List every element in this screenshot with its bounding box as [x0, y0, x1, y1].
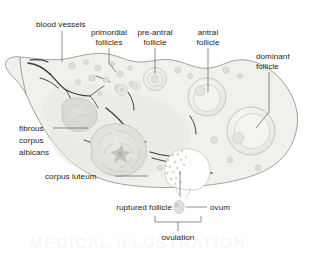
label-ovum: ovum	[210, 203, 230, 212]
ruptured-follicle	[165, 149, 210, 198]
svg-text:MEDICAL ILLUSTRATION: MEDICAL ILLUSTRATION	[30, 234, 247, 251]
ovary-diagram: MEDICAL ILLUSTRATION	[0, 0, 328, 262]
label-ruptured-follicle: ruptured follicle	[116, 203, 172, 212]
label-dominant-follicle-line1: dominant	[256, 52, 290, 61]
corpus-luteum	[91, 124, 147, 176]
label-blood-vessels: blood vessels	[36, 20, 86, 29]
label-ovulation: ovulation	[162, 233, 195, 242]
watermark: MEDICAL ILLUSTRATION	[30, 234, 247, 251]
label-corpus-luteum: corpus luteum	[45, 172, 97, 181]
label-fibrous-corpus-albicans-line2: corpus	[19, 136, 44, 145]
label-fibrous-corpus-albicans-line3: albicans	[19, 148, 49, 157]
label-pre-antral-follicle-line2: follicle	[144, 38, 167, 47]
antral-follicle	[188, 78, 226, 116]
dominant-follicle	[227, 107, 275, 155]
ovum	[174, 200, 184, 213]
label-dominant-follicle-line2: follicle	[256, 62, 279, 71]
label-primordial-follicles-line2: follicles	[96, 38, 123, 47]
label-antral-follicle-line1: antral	[198, 28, 219, 37]
label-pre-antral-follicle-line1: pre-antral	[137, 28, 172, 37]
label-antral-follicle-line2: follicle	[197, 38, 220, 47]
label-fibrous-corpus-albicans-line1: fibrous	[19, 124, 44, 133]
label-primordial-follicles-line1: primordial	[91, 28, 127, 37]
